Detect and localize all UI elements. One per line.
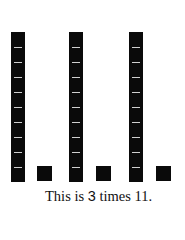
rod-segment-divider xyxy=(14,152,22,153)
ten-rod xyxy=(69,32,83,182)
rod-segment-divider xyxy=(14,107,22,108)
rod-segment-divider xyxy=(14,77,22,78)
caption: This is 3 times 11. xyxy=(45,188,152,205)
rod-segment-divider xyxy=(72,152,80,153)
rod-segment-divider xyxy=(72,62,80,63)
rod-segment-divider xyxy=(132,167,140,168)
rod-segment-divider xyxy=(14,62,22,63)
rod-segment-divider xyxy=(14,122,22,123)
caption-suffix: . xyxy=(148,188,152,204)
caption-middle: times xyxy=(96,188,135,204)
rod-segment-divider xyxy=(132,107,140,108)
rod-segment-divider xyxy=(132,92,140,93)
caption-multiplier: 3 xyxy=(88,188,96,204)
rod-segment-divider xyxy=(132,62,140,63)
rod-segment-divider xyxy=(72,77,80,78)
rod-segment-divider xyxy=(72,137,80,138)
rod-segment-divider xyxy=(132,77,140,78)
rod-segment-divider xyxy=(72,107,80,108)
rod-segment-divider xyxy=(132,152,140,153)
ten-rod xyxy=(11,32,25,182)
unit-cube xyxy=(96,166,111,181)
rod-segment-divider xyxy=(72,92,80,93)
rod-segment-divider xyxy=(14,47,22,48)
rod-segment-divider xyxy=(132,47,140,48)
caption-prefix: This is xyxy=(45,188,88,204)
rod-segment-divider xyxy=(72,167,80,168)
unit-cube xyxy=(156,166,171,181)
rod-segment-divider xyxy=(14,92,22,93)
rod-segment-divider xyxy=(72,122,80,123)
ten-rod xyxy=(129,32,143,182)
rod-segment-divider xyxy=(14,137,22,138)
rod-segment-divider xyxy=(72,47,80,48)
rod-segment-divider xyxy=(14,167,22,168)
unit-cube xyxy=(37,166,52,181)
rod-segment-divider xyxy=(132,122,140,123)
caption-number: 11 xyxy=(134,188,148,204)
rod-segment-divider xyxy=(132,137,140,138)
